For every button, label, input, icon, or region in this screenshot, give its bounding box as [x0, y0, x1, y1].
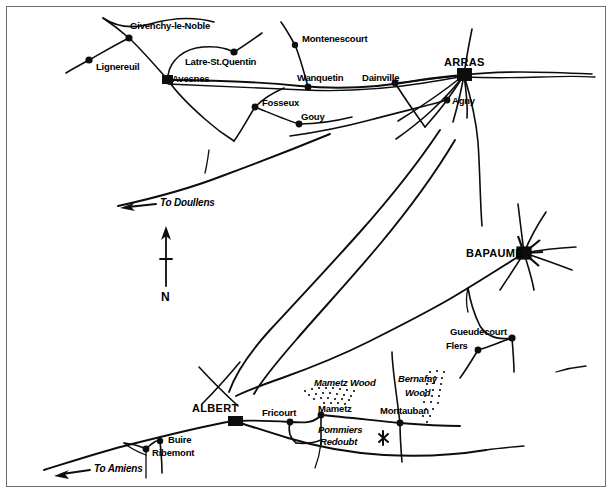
- pommiers-redoubt-marker: [379, 431, 388, 445]
- label-pommiers-redoubt-line1: Pommiers: [318, 425, 362, 435]
- roads-long-diagonals: [118, 130, 524, 406]
- to-amiens-arrow: [54, 470, 90, 479]
- label-lignereuil: Lignereuil: [96, 62, 139, 72]
- roads-arras-region: [66, 18, 595, 226]
- label-bapaume: BAPAUME: [466, 248, 523, 259]
- map-root: Givenchy-le-Noble Lignereuil Latre-St.Qu…: [0, 0, 613, 495]
- label-gouy: Gouy: [301, 112, 324, 122]
- label-dainville: Dainville: [362, 73, 399, 83]
- label-givenchy-le-noble: Givenchy-le-Noble: [130, 21, 210, 31]
- label-wanquetin: Wanquetin: [297, 73, 343, 83]
- label-montenescourt: Montenescourt: [302, 34, 368, 44]
- label-mametz-wood: Mametz Wood: [314, 378, 375, 388]
- label-fricourt: Fricourt: [262, 408, 296, 418]
- label-bernafay-wood-line2: Wood: [405, 388, 430, 398]
- label-pommiers-redoubt-line2: Redoubt: [320, 437, 357, 447]
- label-north: N: [161, 291, 170, 303]
- label-buire: Buire: [168, 435, 191, 445]
- label-mametz: Mametz: [318, 404, 352, 414]
- label-to-doullens: To Doullens: [160, 198, 215, 208]
- label-montauban: Montauban: [380, 406, 429, 416]
- label-bernafay-wood-line1: Bernafay: [398, 374, 437, 384]
- label-latre-st-quentin: Latre-St.Quentin: [185, 57, 256, 67]
- label-agny: Agny: [452, 96, 475, 106]
- label-flers: Flers: [446, 341, 468, 351]
- label-arras: ARRAS: [444, 57, 485, 68]
- label-ribemont: Ribemont: [152, 448, 194, 458]
- north-arrow: [160, 226, 172, 286]
- label-fosseux: Fosseux: [262, 98, 299, 108]
- label-albert: ALBERT: [192, 403, 238, 414]
- label-avesnes: Avesnes: [172, 74, 209, 84]
- label-gueudecourt: Gueudecourt: [450, 327, 507, 337]
- label-to-amiens: To Amiens: [94, 464, 143, 474]
